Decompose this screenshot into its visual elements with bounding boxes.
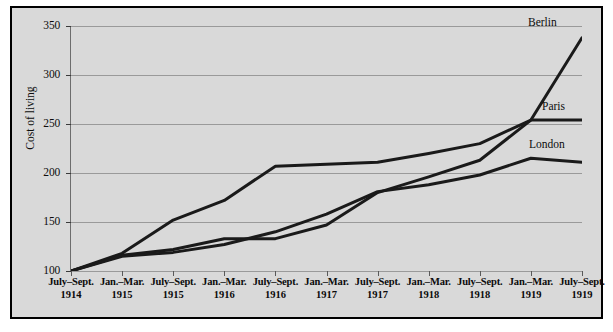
- figure-container: Cost of living 100150200250300350 July–S…: [0, 0, 613, 332]
- y-tick-label: 100: [26, 264, 60, 276]
- series-line-berlin: [71, 38, 582, 271]
- x-tick-year: 1919: [547, 289, 613, 302]
- plot-area: [71, 26, 582, 271]
- series-lines-svg: [71, 26, 582, 271]
- y-tick-label: 200: [26, 166, 60, 178]
- x-tick-label: July–Sept.1919: [547, 276, 613, 301]
- series-line-paris: [71, 120, 582, 271]
- y-tick-label: 350: [26, 19, 60, 31]
- x-tick-period: July–Sept.: [547, 276, 613, 289]
- series-label-london: London: [529, 138, 565, 150]
- y-tick-label: 250: [26, 117, 60, 129]
- plot-wrapper: Cost of living 100150200250300350 July–S…: [0, 0, 613, 332]
- y-tick-label: 300: [26, 68, 60, 80]
- y-tick-label: 150: [26, 215, 60, 227]
- series-line-london: [71, 158, 582, 271]
- series-label-paris: Paris: [542, 100, 565, 112]
- series-label-berlin: Berlin: [528, 16, 557, 28]
